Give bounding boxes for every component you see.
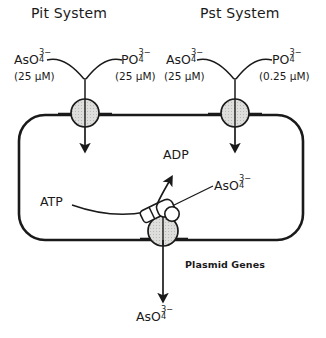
pit-phosphate-concentration: (25 μM) [115, 71, 156, 82]
arsenate-transport-diagram: Pit System Pst System [0, 0, 326, 338]
pit-phosphate-charge: 3−4 [138, 51, 146, 64]
pump-subunit-lobe [165, 207, 179, 221]
arsenate-substrate-pointer [168, 186, 213, 208]
pit-arsenate-label: AsO3−4 [14, 51, 47, 66]
exported-arsenate-charge: 3−4 [161, 308, 169, 321]
pst-phosphate-charge: 3−4 [289, 51, 297, 64]
pst-phosphate-concentration: (0.25 μM) [259, 71, 310, 82]
adp-label: ADP [163, 148, 189, 161]
pst-arsenate-concentration: (25 μM) [164, 71, 205, 82]
atp-label: ATP [40, 195, 63, 208]
atp-input-line [72, 205, 146, 214]
pst-arsenate-charge: 3−4 [191, 51, 199, 64]
pst-arsenate-label: AsO3−4 [166, 51, 199, 66]
pumped-arsenate-label: AsO3−4 [214, 177, 247, 192]
pit-arsenate-concentration: (25 μM) [14, 71, 55, 82]
plasmid-genes-label: Plasmid Genes [185, 260, 265, 270]
pumped-arsenate-charge: 3−4 [239, 177, 247, 190]
pit-arsenate-charge: 3−4 [39, 51, 47, 64]
pst-phosphate-label: PO3−4 [272, 51, 297, 66]
pit-phosphate-label: PO3−4 [121, 51, 146, 66]
exported-arsenate-label: AsO3−4 [136, 308, 169, 323]
